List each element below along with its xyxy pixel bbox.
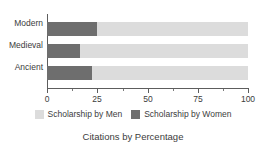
x-tick-label-75: 75 bbox=[183, 94, 213, 104]
plot-area bbox=[47, 14, 248, 88]
category-label-modern: Modern bbox=[0, 18, 43, 28]
x-tick-minor bbox=[123, 89, 124, 91]
x-tick-0 bbox=[47, 89, 48, 93]
bar-segment-men[interactable] bbox=[97, 22, 248, 36]
legend-item-women[interactable]: Scholarship by Women bbox=[131, 109, 231, 119]
x-tick-75 bbox=[198, 89, 199, 93]
chart-legend: Scholarship by Men Scholarship by Women bbox=[0, 109, 266, 119]
bar-segment-women[interactable] bbox=[47, 22, 97, 36]
bar-segment-women[interactable] bbox=[47, 44, 80, 58]
legend-label-women: Scholarship by Women bbox=[144, 109, 231, 119]
category-label-medieval: Medieval bbox=[0, 40, 43, 50]
category-label-ancient: Ancient bbox=[0, 62, 43, 72]
bar-segment-women[interactable] bbox=[47, 66, 92, 80]
stacked-bar-chart: Modern Medieval Ancient 0 25 50 75 100 S… bbox=[0, 0, 266, 153]
legend-swatch-women-icon bbox=[131, 110, 140, 119]
x-tick-100 bbox=[248, 89, 249, 93]
x-tick-label-0: 0 bbox=[32, 94, 62, 104]
x-tick-minor bbox=[72, 89, 73, 91]
category-axis-labels: Modern Medieval Ancient bbox=[0, 14, 43, 88]
x-tick-label-100: 100 bbox=[233, 94, 263, 104]
x-tick-minor bbox=[173, 89, 174, 91]
legend-label-men: Scholarship by Men bbox=[48, 109, 123, 119]
x-tick-label-25: 25 bbox=[82, 94, 112, 104]
x-tick-minor bbox=[223, 89, 224, 91]
legend-item-men[interactable]: Scholarship by Men bbox=[35, 109, 123, 119]
x-tick-25 bbox=[97, 89, 98, 93]
legend-swatch-men-icon bbox=[35, 110, 44, 119]
x-tick-label-50: 50 bbox=[133, 94, 163, 104]
bar-segment-men[interactable] bbox=[80, 44, 248, 58]
x-axis-title: Citations by Percentage bbox=[0, 131, 266, 143]
x-tick-50 bbox=[148, 89, 149, 93]
bar-segment-men[interactable] bbox=[92, 66, 248, 80]
